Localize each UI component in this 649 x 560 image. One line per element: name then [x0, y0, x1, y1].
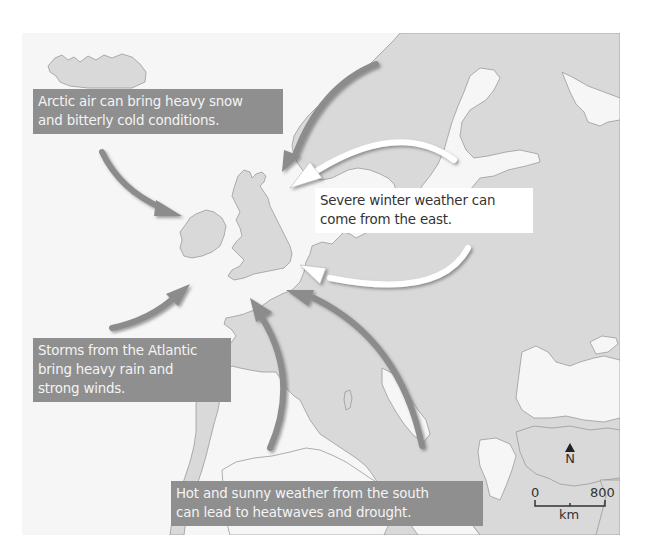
label-south: Hot and sunny weather from the south can…: [171, 481, 483, 526]
label-arctic-line1: Arctic air can bring heavy snow: [38, 92, 278, 111]
label-atlantic-line3: strong winds.: [38, 379, 226, 398]
map-frame: Arctic air can bring heavy snow and bitt…: [22, 33, 620, 535]
label-south-line2: can lead to heatwaves and drought.: [176, 503, 478, 522]
scale-unit: km: [559, 507, 579, 522]
scale-bar: 0 800 km: [527, 485, 622, 525]
label-atlantic-line2: bring heavy rain and: [38, 360, 226, 379]
label-east-line2: come from the east.: [320, 210, 528, 229]
north-compass: N: [560, 443, 580, 466]
compass-label: N: [560, 452, 580, 466]
ireland: [180, 210, 226, 258]
label-east: Severe winter weather can come from the …: [315, 188, 533, 233]
great-britain: [228, 170, 292, 280]
label-arctic: Arctic air can bring heavy snow and bitt…: [33, 89, 283, 134]
atlantic-arrow: [112, 284, 190, 328]
iceland: [48, 54, 146, 88]
label-atlantic: Storms from the Atlantic bring heavy rai…: [33, 338, 231, 402]
arctic-arrow-northwest: [102, 152, 182, 216]
label-arctic-line2: and bitterly cold conditions.: [38, 111, 278, 130]
label-east-line1: Severe winter weather can: [320, 191, 528, 210]
label-south-line1: Hot and sunny weather from the south: [176, 484, 478, 503]
label-atlantic-line1: Storms from the Atlantic: [38, 341, 226, 360]
